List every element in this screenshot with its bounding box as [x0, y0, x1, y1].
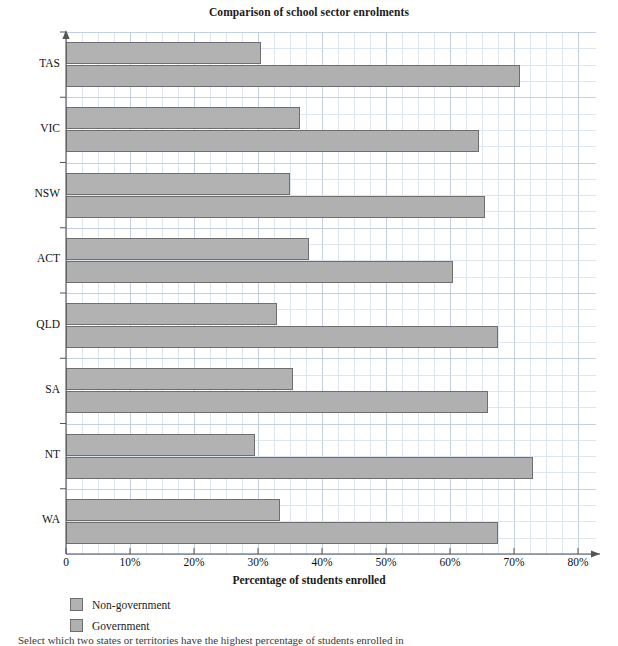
- x-tick-70: 70%: [484, 556, 544, 568]
- chart-title: Comparison of school sector enrolments: [0, 6, 618, 18]
- bar-nsw-non-government: [66, 173, 290, 195]
- bar-act-non-government: [66, 238, 309, 260]
- bar-vic-non-government: [66, 107, 300, 129]
- y-axis-label-act: ACT: [0, 252, 60, 264]
- y-axis-label-nsw: NSW: [0, 187, 60, 199]
- y-axis-label-sa: SA: [0, 383, 60, 395]
- y-axis-label-tas: TAS: [0, 57, 60, 69]
- bar-tas-non-government: [66, 42, 261, 64]
- x-tick-50: 50%: [356, 556, 416, 568]
- bar-nsw-government: [66, 196, 485, 218]
- bar-nt-government: [66, 457, 533, 479]
- bar-qld-government: [66, 326, 498, 348]
- x-tick-80: 80%: [548, 556, 608, 568]
- y-axis-label-wa: WA: [0, 513, 60, 525]
- legend-label: Non-government: [92, 599, 171, 611]
- bar-sa-non-government: [66, 368, 293, 390]
- bar-qld-non-government: [66, 303, 277, 325]
- legend-swatch-icon: [70, 598, 83, 611]
- chart-legend: Non-government Government: [70, 594, 171, 636]
- y-axis-label-qld: QLD: [0, 318, 60, 330]
- legend-item-government: Government: [70, 615, 171, 636]
- legend-item-non-government: Non-government: [70, 594, 171, 615]
- x-axis-title: Percentage of students enrolled: [0, 574, 618, 586]
- bar-act-government: [66, 261, 453, 283]
- bar-vic-government: [66, 130, 479, 152]
- x-tick-60: 60%: [420, 556, 480, 568]
- bar-sa-government: [66, 391, 488, 413]
- plot-area: [66, 32, 596, 554]
- y-axis-category-labels: TASVICNSWACTQLDSANTWA: [0, 32, 60, 554]
- legend-label: Government: [92, 620, 149, 632]
- x-tick-0: 0: [36, 556, 96, 568]
- x-tick-20: 20%: [164, 556, 224, 568]
- footer-question-text: Select which two states or territories h…: [18, 634, 608, 646]
- legend-swatch-icon: [70, 619, 83, 632]
- bar-wa-government: [66, 522, 498, 544]
- x-tick-30: 30%: [228, 556, 288, 568]
- x-tick-40: 40%: [292, 556, 352, 568]
- bar-wa-non-government: [66, 499, 280, 521]
- bar-nt-non-government: [66, 434, 255, 456]
- x-tick-10: 10%: [100, 556, 160, 568]
- y-axis-label-nt: NT: [0, 448, 60, 460]
- bar-tas-government: [66, 65, 520, 87]
- y-axis-label-vic: VIC: [0, 122, 60, 134]
